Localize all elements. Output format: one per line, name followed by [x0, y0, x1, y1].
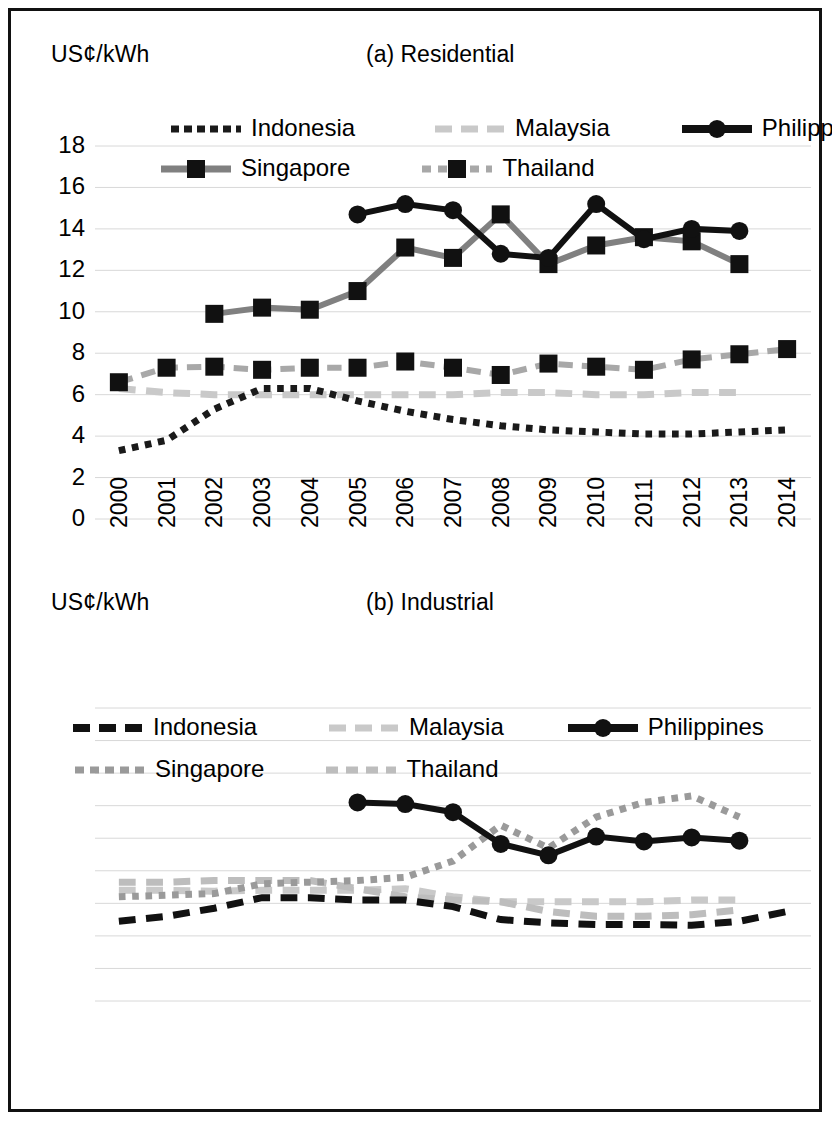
x-axis-tick-label: 2005 — [347, 477, 370, 528]
data-point — [444, 201, 462, 219]
x-axis-tick-label: 2010 — [585, 477, 608, 528]
data-point — [492, 205, 510, 223]
legend-label: Malaysia — [515, 114, 610, 142]
legend-swatch-icon — [420, 158, 494, 178]
series-thailand — [110, 340, 796, 391]
gridlines — [95, 708, 811, 1001]
data-point — [539, 355, 557, 373]
legend-swatch-icon — [327, 717, 401, 737]
data-point — [635, 230, 653, 248]
legend-item-thailand[interactable]: Thailand — [324, 755, 498, 783]
legend-row: SingaporeThailand — [159, 154, 594, 182]
legend-label: Indonesia — [153, 713, 257, 741]
legend-item-indonesia[interactable]: Indonesia — [71, 713, 257, 741]
chart-panel-residential: US¢/kWh (a) Residential IndonesiaMalaysi… — [11, 11, 819, 559]
data-point — [587, 828, 605, 846]
legend-row: SingaporeThailand — [73, 755, 498, 783]
series-malaysia — [119, 388, 740, 394]
data-point — [444, 359, 462, 377]
legend-swatch-icon — [159, 158, 233, 178]
data-point — [110, 373, 128, 391]
x-axis-tick-label: 2001 — [156, 477, 179, 528]
y-axis-tick-label: 10 — [33, 299, 85, 323]
data-point — [587, 358, 605, 376]
data-point — [730, 832, 748, 850]
y-axis-tick-label: 2 — [33, 465, 85, 489]
legend-label: Singapore — [241, 154, 350, 182]
legend-swatch-icon — [566, 717, 640, 737]
legend-swatch-icon — [433, 118, 507, 138]
data-point — [396, 239, 414, 257]
data-point — [396, 195, 414, 213]
data-point — [253, 299, 271, 317]
x-axis-tick-label: 2006 — [394, 477, 417, 528]
x-axis-tick-label: 2002 — [203, 477, 226, 528]
y-axis-tick-label: 0 — [33, 506, 85, 530]
data-point — [349, 793, 367, 811]
x-axis-tick-label: 2007 — [442, 477, 465, 528]
y-axis-tick-label: 6 — [33, 382, 85, 406]
legend-label: Malaysia — [409, 713, 504, 741]
figure-frame: US¢/kWh (a) Residential IndonesiaMalaysi… — [8, 8, 822, 1112]
x-axis-tick-label: 2009 — [537, 477, 560, 528]
data-point — [349, 359, 367, 377]
x-axis-tick-label: 2003 — [251, 477, 274, 528]
x-axis-tick-label: 2013 — [728, 477, 751, 528]
data-point — [730, 345, 748, 363]
legend-item-singapore[interactable]: Singapore — [73, 755, 264, 783]
chart-svg — [11, 561, 819, 1109]
x-axis-tick-label: 2012 — [681, 477, 704, 528]
data-point — [396, 353, 414, 371]
data-point — [683, 220, 701, 238]
legend-item-philippines[interactable]: Philippines — [680, 114, 832, 142]
legend-row: IndonesiaMalaysiaPhilippines — [169, 114, 832, 142]
legend-item-singapore[interactable]: Singapore — [159, 154, 350, 182]
data-point — [158, 359, 176, 377]
legend-label: Singapore — [155, 755, 264, 783]
data-point — [396, 795, 414, 813]
data-point — [539, 846, 557, 864]
series-singapore — [205, 205, 748, 322]
legend-swatch-icon — [71, 717, 145, 737]
legend-label: Philippines — [648, 713, 764, 741]
data-point — [730, 255, 748, 273]
legend-swatch-icon — [324, 759, 398, 779]
data-point — [683, 828, 701, 846]
data-point — [635, 361, 653, 379]
legend-swatch-icon — [169, 118, 243, 138]
legend-label: Philippines — [762, 114, 832, 142]
legend-item-malaysia[interactable]: Malaysia — [433, 114, 610, 142]
series-philippines — [349, 793, 749, 864]
data-point — [587, 195, 605, 213]
data-point — [444, 803, 462, 821]
data-point — [539, 249, 557, 267]
data-point — [492, 245, 510, 263]
data-point — [778, 340, 796, 358]
legend-label: Thailand — [502, 154, 594, 182]
y-axis-tick-label: 18 — [33, 133, 85, 157]
y-axis-tick-label: 16 — [33, 174, 85, 198]
legend-item-indonesia[interactable]: Indonesia — [169, 114, 355, 142]
x-axis-tick-label: 2000 — [108, 477, 131, 528]
x-axis-tick-label: 2008 — [490, 477, 513, 528]
legend-label: Thailand — [406, 755, 498, 783]
data-point — [205, 358, 223, 376]
data-point — [730, 222, 748, 240]
x-axis-tick-label: 2004 — [299, 477, 322, 528]
plot-area-industrial — [11, 561, 819, 1109]
data-point — [349, 205, 367, 223]
legend-label: Indonesia — [251, 114, 355, 142]
legend-item-thailand[interactable]: Thailand — [420, 154, 594, 182]
legend-swatch-icon — [73, 759, 147, 779]
chart-panel-industrial: US¢/kWh (b) Industrial IndonesiaMalaysia… — [11, 561, 819, 1109]
legend-item-malaysia[interactable]: Malaysia — [327, 713, 504, 741]
data-point — [301, 301, 319, 319]
data-point — [301, 359, 319, 377]
y-axis-tick-label: 14 — [33, 216, 85, 240]
legend-row: IndonesiaMalaysiaPhilippines — [71, 713, 764, 741]
legend-item-philippines[interactable]: Philippines — [566, 713, 764, 741]
data-point — [349, 282, 367, 300]
y-axis-tick-label: 12 — [33, 257, 85, 281]
data-point — [587, 236, 605, 254]
legend-swatch-icon — [680, 118, 754, 138]
